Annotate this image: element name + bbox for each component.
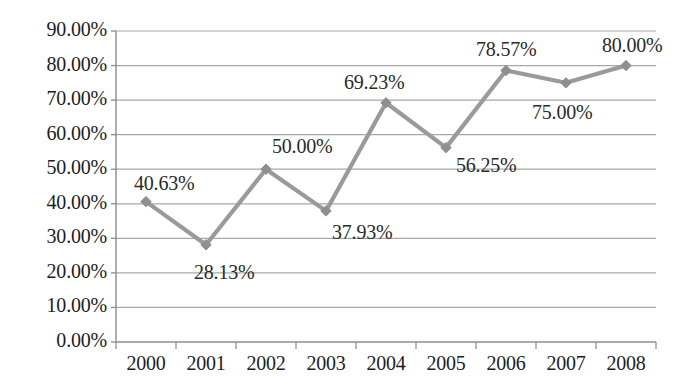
data-point-value-label: 50.00% [272, 135, 332, 158]
y-axis-tick-label: 30.00% [47, 225, 107, 248]
data-point-value-label: 75.00% [532, 101, 592, 124]
data-point-value-label: 56.25% [456, 154, 516, 177]
y-axis-tick-label: 10.00% [47, 294, 107, 317]
y-axis-tick-label: 90.00% [47, 18, 107, 41]
y-axis-tick-label: 70.00% [47, 87, 107, 110]
y-axis-tick-label: 20.00% [47, 260, 107, 283]
data-point-value-label: 28.13% [194, 261, 254, 284]
data-point-value-label: 37.93% [332, 221, 392, 244]
x-axis-tick-label: 2008 [591, 352, 661, 375]
data-point-value-label: 69.23% [344, 71, 404, 94]
y-axis-tick-label: 60.00% [47, 122, 107, 145]
y-axis-tick-label: 40.00% [47, 191, 107, 214]
line-chart: 0.00%10.00%20.00%30.00%40.00%50.00%60.00… [0, 0, 683, 390]
y-axis-tick-label: 80.00% [47, 53, 107, 76]
data-point-marker [561, 78, 571, 88]
data-point-value-label: 78.57% [476, 38, 536, 61]
data-point-value-label: 80.00% [602, 34, 662, 57]
data-point-value-label: 40.63% [134, 172, 194, 195]
x-tick-marks-group [116, 342, 656, 349]
data-point-marker [621, 60, 631, 70]
y-axis-tick-label: 0.00% [56, 329, 107, 352]
y-axis-tick-label: 50.00% [47, 156, 107, 179]
